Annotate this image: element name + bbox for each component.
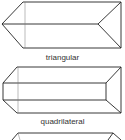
triangular-label: triangular xyxy=(0,53,125,62)
partial-prism xyxy=(12,133,121,140)
quadrilateral-prism xyxy=(3,67,121,113)
triangular-prism xyxy=(2,2,121,48)
quadrilateral-label: quadrilateral xyxy=(0,117,125,126)
